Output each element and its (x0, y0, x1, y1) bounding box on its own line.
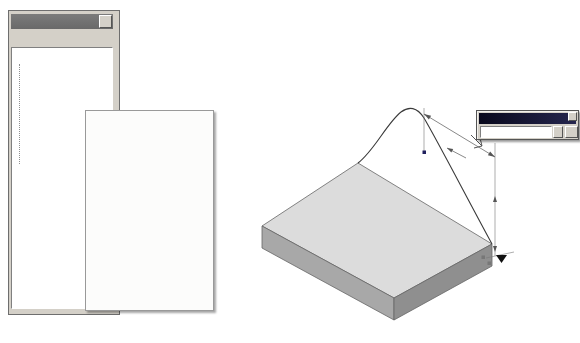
close-icon[interactable] (568, 112, 577, 121)
sketch-point-marker[interactable] (423, 151, 427, 155)
dialog-titlebar[interactable] (479, 113, 576, 124)
help-button[interactable] (99, 15, 112, 28)
sketch-point-marker[interactable] (482, 256, 486, 260)
flyout-arrow-button[interactable] (553, 126, 563, 138)
sketch-point-marker[interactable] (488, 262, 492, 266)
context-menu (85, 110, 214, 311)
grip-triangle-marker[interactable] (496, 255, 507, 263)
arrowhead-icon (493, 246, 497, 252)
arrowhead-icon (424, 114, 431, 120)
dimension-value-input[interactable] (480, 126, 552, 138)
arrowhead-icon (447, 148, 453, 153)
screenshot-stage (0, 0, 580, 343)
edit-dimension-dialog (476, 110, 579, 140)
arrowhead-icon (488, 152, 495, 158)
accept-checkmark-button[interactable] (565, 126, 578, 138)
browser-panel-header[interactable] (11, 14, 113, 29)
arrowhead-icon (493, 196, 497, 202)
tree-connector-line (19, 64, 20, 164)
browser-toolbar (13, 29, 117, 46)
